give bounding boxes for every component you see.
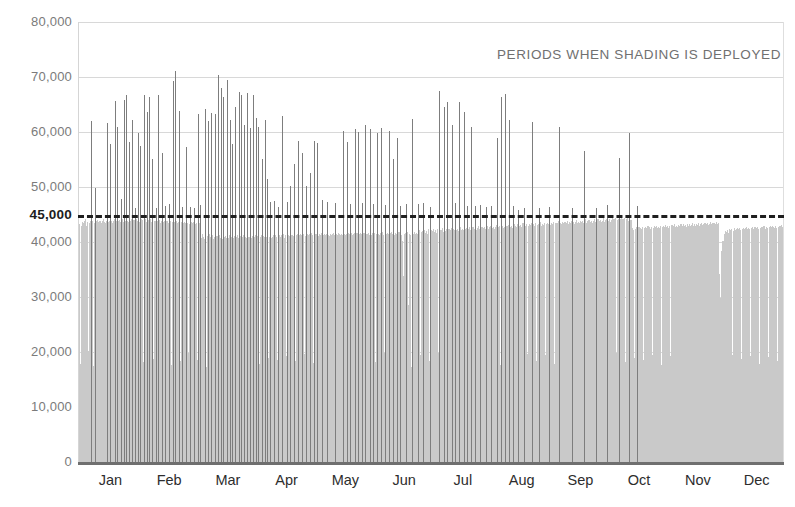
y-tick-label: 40,000: [2, 235, 72, 248]
threshold-line-45000: [78, 215, 784, 218]
spike-bar: [253, 95, 254, 462]
spike-bar: [250, 128, 251, 462]
y-axis: 80,00070,00060,00050,00045,00040,00030,0…: [0, 0, 72, 507]
spike-bar: [491, 206, 492, 462]
gridline: [78, 77, 783, 78]
x-tick-label-jun: Jun: [374, 472, 434, 488]
spike-bar: [373, 204, 374, 463]
spike-bar: [322, 200, 323, 462]
spike-bar: [262, 159, 263, 462]
x-tick-label-aug: Aug: [492, 472, 552, 488]
spike-bar: [317, 143, 318, 462]
spike-bar: [347, 142, 348, 462]
spike-bar: [247, 93, 248, 462]
plot-left-border: [78, 22, 79, 463]
spike-bar: [393, 159, 394, 462]
spike-bar: [439, 91, 440, 462]
plot-right-border: [783, 22, 784, 463]
spike-bar: [539, 208, 540, 462]
spike-bar: [152, 159, 153, 462]
spike-bar: [200, 205, 201, 462]
plot-area: [78, 22, 783, 462]
spike-bar: [486, 207, 487, 462]
spike-bar: [430, 207, 431, 462]
spike-bar: [385, 205, 386, 462]
spike-bar: [244, 125, 245, 462]
spike-bar: [355, 129, 356, 462]
spike-bar: [235, 107, 236, 462]
spike-bar: [198, 114, 199, 462]
spike-bar: [149, 97, 150, 462]
spike-bar: [208, 121, 209, 462]
spike-bar: [256, 118, 257, 462]
x-tick-label-nov: Nov: [668, 472, 728, 488]
spike-bar: [559, 127, 560, 463]
spike-bar: [412, 119, 413, 462]
spike-bar: [221, 88, 222, 462]
spike-bar: [497, 138, 498, 463]
spike-bar: [505, 94, 506, 463]
spike-bar: [158, 95, 159, 462]
spike-bar: [444, 107, 445, 462]
spike-bar: [227, 80, 228, 462]
spike-bar: [162, 153, 163, 462]
spike-bar: [452, 125, 453, 462]
y-tick-label: 10,000: [2, 400, 72, 413]
spike-bar: [501, 97, 502, 462]
spike-bar: [173, 81, 174, 462]
spike-bar: [115, 101, 116, 462]
spike-bar: [124, 100, 125, 462]
spike-bar: [138, 133, 139, 462]
spike-bar: [362, 203, 363, 462]
spike-bar: [135, 208, 136, 462]
spike-bar: [182, 207, 183, 462]
x-tick-label-may: May: [315, 472, 375, 488]
spike-bar: [169, 204, 170, 463]
spike-bar: [509, 120, 510, 462]
spike-bar: [524, 208, 525, 462]
spike-bar: [619, 158, 620, 462]
spike-bar: [572, 208, 573, 462]
chart-container: 80,00070,00060,00050,00045,00040,00030,0…: [0, 0, 795, 507]
spike-bar: [140, 146, 141, 462]
spike-bar: [241, 95, 242, 462]
spike-bar: [218, 75, 219, 462]
spike-bar: [294, 164, 295, 462]
spike-bar: [156, 208, 157, 462]
spike-bar: [365, 125, 366, 462]
spike-bar: [258, 127, 259, 462]
spike-bar: [147, 112, 148, 462]
y-tick-label: 20,000: [2, 345, 72, 358]
y-tick-label: 50,000: [2, 180, 72, 193]
spike-bar: [290, 186, 291, 462]
spike-bar: [117, 127, 118, 462]
y-tick-label: 30,000: [2, 290, 72, 303]
spike-bar: [471, 127, 472, 462]
spike-bar: [629, 133, 630, 462]
spike-bar: [418, 204, 419, 463]
spike-bar: [190, 207, 191, 462]
spike-bar: [343, 131, 344, 462]
spike-bar: [513, 206, 514, 462]
spike-bar: [265, 120, 266, 462]
x-axis-line: [78, 462, 784, 465]
spike-bar: [423, 203, 424, 462]
spike-bar: [406, 204, 407, 462]
spike-bar: [121, 199, 122, 462]
spike-bar: [205, 109, 206, 462]
spike-bar: [475, 206, 476, 462]
spike-bar: [459, 102, 460, 462]
y-tick-label: 0: [2, 455, 72, 468]
spike-bar: [287, 202, 288, 462]
spike-bar: [464, 112, 465, 462]
gridline: [78, 132, 783, 133]
spike-bar: [175, 71, 176, 462]
spike-bar: [518, 210, 519, 462]
spike-bar: [607, 205, 608, 462]
spike-bar: [282, 116, 283, 463]
y-tick-label: 70,000: [2, 70, 72, 83]
spike-bar: [126, 95, 127, 462]
spike-bar: [110, 144, 111, 462]
spike-bar: [274, 201, 275, 462]
spike-bar: [397, 138, 398, 463]
